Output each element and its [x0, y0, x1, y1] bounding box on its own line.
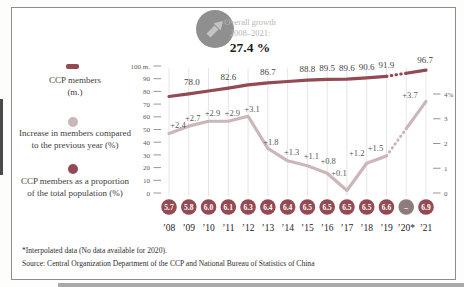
year-labels: ’08’09’10’11’12’13’14’15’16’17’18’19’20*… [163, 223, 433, 233]
svg-text:0: 0 [444, 190, 448, 198]
svg-text:+3.7: +3.7 [402, 90, 417, 100]
svg-text:3: 3 [444, 115, 448, 123]
svg-text:’17: ’17 [341, 223, 354, 233]
svg-text:+2.4: +2.4 [170, 120, 186, 130]
svg-text:6.5: 6.5 [303, 203, 313, 212]
svg-text:20: 20 [143, 164, 151, 172]
svg-text:100 m.: 100 m. [131, 63, 151, 71]
svg-text:+2.9: +2.9 [205, 108, 220, 118]
svg-text:88.8: 88.8 [300, 64, 316, 74]
left-axis: 100 m.9080706050403020100 [131, 63, 161, 198]
svg-text:90.6: 90.6 [359, 62, 375, 72]
svg-text:80: 80 [143, 88, 151, 96]
svg-text:+1.5: +1.5 [368, 143, 383, 153]
svg-text:’15: ’15 [301, 223, 314, 233]
svg-text:’09: ’09 [182, 223, 195, 233]
svg-text:91.9: 91.9 [379, 60, 395, 70]
svg-text:’10: ’10 [202, 223, 215, 233]
yearly-increase-line: +2.4+2.7+2.9+2.9+3.1+1.8+1.3+1.1+0.8+0.1… [169, 90, 426, 190]
svg-text:’21: ’21 [420, 223, 433, 233]
svg-text:6.1: 6.1 [224, 203, 234, 212]
svg-text:60: 60 [143, 113, 151, 121]
right-axis: 4%3210 [433, 91, 454, 198]
svg-text:90: 90 [143, 75, 151, 83]
svg-text:89.6: 89.6 [339, 63, 355, 73]
svg-text:6.9: 6.9 [421, 203, 431, 212]
svg-text:6.4: 6.4 [263, 203, 273, 212]
svg-text:–: – [403, 203, 408, 212]
svg-text:89.5: 89.5 [319, 63, 335, 73]
svg-text:+3.1: +3.1 [244, 104, 259, 114]
line-chart: 100 m.90807060504030201004%321078.082.68… [0, 0, 464, 287]
gridlines [169, 68, 426, 196]
footnote: *Interpolated data (No data available fo… [22, 246, 167, 255]
svg-text:96.7: 96.7 [417, 55, 433, 65]
svg-text:6.5: 6.5 [362, 203, 372, 212]
svg-text:30: 30 [143, 152, 151, 160]
svg-text:’12: ’12 [242, 223, 255, 233]
svg-text:’14: ’14 [281, 223, 294, 233]
svg-text:70: 70 [143, 101, 151, 109]
svg-text:6.3: 6.3 [243, 203, 253, 212]
svg-text:+0.1: +0.1 [331, 168, 346, 178]
svg-text:5.8: 5.8 [184, 203, 194, 212]
svg-text:’16: ’16 [321, 223, 334, 233]
source-line: Source: Central Organization Department … [22, 259, 315, 268]
svg-text:+1.3: +1.3 [284, 147, 299, 157]
svg-text:+1.2: +1.2 [349, 148, 364, 158]
svg-text:1: 1 [444, 165, 448, 173]
svg-text:+1.1: +1.1 [304, 151, 319, 161]
svg-text:6.5: 6.5 [342, 203, 352, 212]
svg-text:40: 40 [143, 139, 151, 147]
svg-text:6.5: 6.5 [322, 203, 332, 212]
svg-text:50: 50 [143, 126, 151, 134]
svg-text:’13: ’13 [262, 223, 275, 233]
svg-text:2: 2 [444, 140, 448, 148]
svg-text:+1.8: +1.8 [263, 137, 278, 147]
svg-text:+2.9: +2.9 [225, 108, 240, 118]
svg-text:’08: ’08 [163, 223, 176, 233]
svg-text:10: 10 [143, 177, 151, 185]
svg-text:’18: ’18 [360, 223, 373, 233]
svg-text:4%: 4% [444, 91, 454, 99]
svg-text:’20*: ’20* [398, 223, 416, 233]
svg-text:6.0: 6.0 [204, 203, 214, 212]
svg-text:’19: ’19 [380, 223, 393, 233]
svg-text:6.6: 6.6 [382, 203, 392, 212]
svg-text:6.4: 6.4 [283, 203, 293, 212]
svg-text:0: 0 [147, 190, 151, 198]
svg-text:5.7: 5.7 [164, 203, 174, 212]
svg-text:86.7: 86.7 [260, 67, 276, 77]
svg-text:78.0: 78.0 [184, 77, 200, 87]
svg-text:+0.8: +0.8 [320, 156, 335, 166]
proportion-circles: 5.75.86.06.16.36.46.46.56.56.56.56.6–6.9 [161, 199, 434, 215]
svg-text:+2.7: +2.7 [185, 113, 200, 123]
svg-text:’11: ’11 [222, 223, 235, 233]
svg-text:82.6: 82.6 [220, 72, 236, 82]
